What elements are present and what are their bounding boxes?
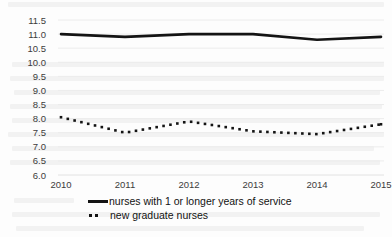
x-axis-tick-labels: 2010 2011 2012 2013 2014 2015	[50, 179, 391, 190]
y-axis-tick-labels: 11.5 11.0 10.5 10.0 9.5 9.0 8.5 8.0 7.5 …	[28, 15, 47, 181]
y-tick-label: 9.5	[33, 71, 46, 82]
y-tick-label: 6.0	[33, 170, 46, 181]
y-tick-label: 6.5	[33, 155, 46, 166]
y-tick-label: 8.5	[33, 99, 46, 110]
y-tick-label: 10.0	[28, 57, 47, 68]
legend-label: nurses with 1 or longer years of service	[109, 195, 292, 208]
y-tick-label: 11.5	[28, 15, 46, 26]
x-tick-label: 2010	[50, 179, 71, 190]
x-tick-label: 2013	[242, 179, 263, 190]
y-tick-label: 8.0	[33, 113, 46, 124]
y-tick-label: 7.5	[33, 127, 46, 138]
solid-line-marker-icon	[88, 200, 108, 203]
x-tick-label: 2011	[115, 179, 135, 190]
y-tick-label: 10.5	[28, 43, 47, 54]
dotted-line-marker-icon	[88, 214, 108, 217]
x-tick-label: 2015	[370, 179, 391, 190]
y-tick-label: 9.0	[33, 85, 46, 96]
series-line-nurses-1-or-longer-years	[61, 34, 381, 40]
y-tick-label: 7.0	[33, 141, 46, 152]
x-tick-label: 2014	[306, 179, 327, 190]
legend-label: new graduate nurses	[110, 209, 208, 222]
x-tick-label: 2012	[178, 179, 199, 190]
y-tick-label: 11.0	[28, 29, 46, 40]
y-gridlines	[58, 20, 384, 175]
chart-figure: 11.5 11.0 10.5 10.0 9.5 9.0 8.5 8.0 7.5 …	[0, 0, 392, 237]
chart-legend: nurses with 1 or longer years of service…	[88, 194, 292, 222]
legend-item-nurses-1-or-longer-years: nurses with 1 or longer years of service	[88, 194, 292, 208]
legend-item-new-graduate-nurses: new graduate nurses	[88, 208, 292, 222]
